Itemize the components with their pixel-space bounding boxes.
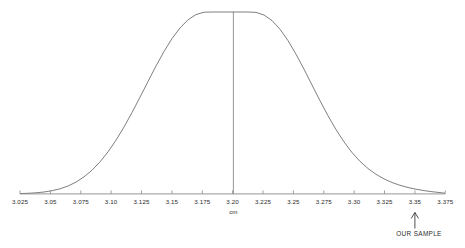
x-tick-label-3.35: 3.35 (409, 198, 421, 205)
x-tick-label-3.075: 3.075 (73, 198, 89, 205)
x-tick-label-3.275: 3.275 (316, 198, 332, 205)
x-tick-label-3.025: 3.025 (12, 198, 28, 205)
x-tick-label-3.10: 3.10 (105, 198, 117, 205)
x-tick-label-3.20: 3.20 (226, 198, 238, 205)
x-tick-label-3.325: 3.325 (377, 198, 393, 205)
x-tick-label-3.225: 3.225 (255, 198, 271, 205)
x-tick-label-3.25: 3.25 (287, 198, 299, 205)
x-tick-label-3.15: 3.15 (166, 198, 178, 205)
bell-curve-path (20, 12, 445, 194)
x-tick-label-3.05: 3.05 (44, 198, 56, 205)
x-tick-label-3.125: 3.125 (134, 198, 150, 205)
x-tick-label-3.175: 3.175 (194, 198, 210, 205)
x-tick-label-3.30: 3.30 (348, 198, 360, 205)
x-axis-unit-label: cm (229, 208, 237, 215)
our-sample-annotation-label: OUR SAMPLE (396, 230, 441, 237)
our-sample-arrow-icon (411, 213, 418, 229)
figure-container: 3.025 3.05 3.075 3.10 3.125 3.15 3.175 3… (0, 0, 465, 248)
x-axis-ticks (20, 190, 445, 194)
x-tick-label-3.375: 3.375 (437, 198, 453, 205)
